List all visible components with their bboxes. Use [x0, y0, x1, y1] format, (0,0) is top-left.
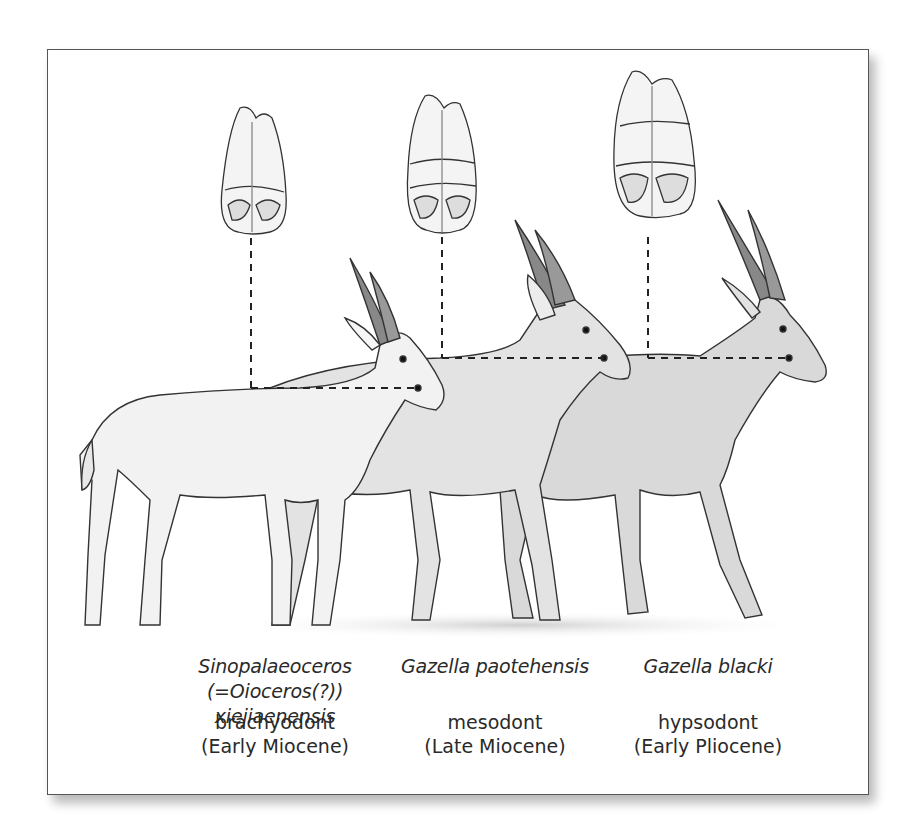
species-label-gazella-blacki: Gazella blacki	[578, 654, 838, 679]
mesodont-molar-icon	[407, 95, 476, 233]
epoch: (Early Pliocene)	[578, 734, 838, 758]
brachyodont-molar-icon	[221, 107, 286, 234]
illustration-canvas	[0, 0, 915, 833]
species-name-line1: Gazella blacki	[578, 654, 838, 679]
hypsodont-molar-icon	[614, 71, 696, 217]
crown-type: hypsodont	[578, 710, 838, 734]
crown-type-label-hypsodont: hypsodont (Early Pliocene)	[578, 710, 838, 758]
